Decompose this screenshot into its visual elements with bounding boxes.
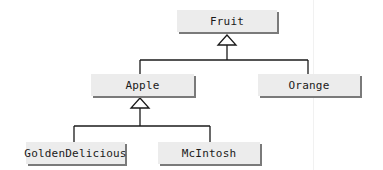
class-name: Fruit bbox=[210, 15, 244, 28]
class-name: GoldenDelicious bbox=[24, 147, 126, 160]
class-box-golden-delicious: GoldenDelicious bbox=[26, 142, 125, 164]
class-name: Apple bbox=[125, 79, 159, 92]
class-diagram: Fruit Apple Orange GoldenDelicious McInt… bbox=[0, 0, 383, 170]
class-box-apple: Apple bbox=[91, 74, 194, 96]
class-name: McIntosh bbox=[182, 147, 237, 160]
inheritance-arrow-icon bbox=[131, 98, 149, 108]
class-name: Orange bbox=[289, 79, 330, 92]
class-box-fruit: Fruit bbox=[177, 10, 277, 32]
class-box-orange: Orange bbox=[258, 74, 360, 96]
inheritance-arrow-icon bbox=[218, 35, 236, 45]
class-box-mcintosh: McIntosh bbox=[158, 142, 260, 164]
